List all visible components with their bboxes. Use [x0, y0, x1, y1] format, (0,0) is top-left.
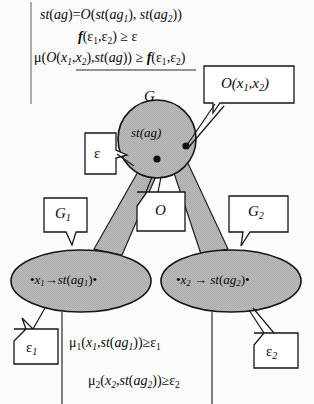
callout-epsilon2-label: ε2	[266, 344, 277, 361]
equation-mu-bound: μ(O(x1,x2),st(ag)) ≥ f(ε1,ε2)	[34, 51, 185, 67]
node-root-dot-center	[153, 155, 160, 162]
callout-epsilon1-label: ε1	[26, 340, 37, 357]
node-right-content: •x2 → st(ag2)•	[176, 273, 250, 288]
callout-epsilon1-leader	[33, 308, 45, 329]
equation-mu2-bound: μ2(x2,st(ag2))≥ε2	[88, 374, 180, 390]
callout-g2-label: G2	[248, 204, 264, 221]
callout-g1-label: G1	[55, 206, 71, 223]
callout-o-x1x2-label: O(x1,x2)	[221, 76, 269, 93]
callout-epsilon-label: ε	[94, 146, 100, 161]
callout-o-label: O	[155, 203, 166, 218]
equation-f-epsilon: f(ε1,ε2) ≥ ε	[78, 30, 137, 46]
callout-epsilon2-leader-a	[249, 310, 264, 333]
node-root-label-g: G	[144, 89, 155, 104]
equation-st-ag-composition: st(ag)=O(st(ag1), st(ag2))	[40, 8, 182, 24]
diagram-figure: st(ag)=O(st(ag1), st(ag2)) f(ε1,ε2) ≥ ε …	[0, 0, 314, 404]
callout-o-leader-b	[158, 177, 161, 192]
node-root-content: st(ag)	[131, 126, 161, 139]
equation-mu1-bound: μ1(x1,st(ag1))≥ε1	[69, 336, 161, 352]
node-left-content: •x1→st(ag1)•	[30, 273, 97, 288]
